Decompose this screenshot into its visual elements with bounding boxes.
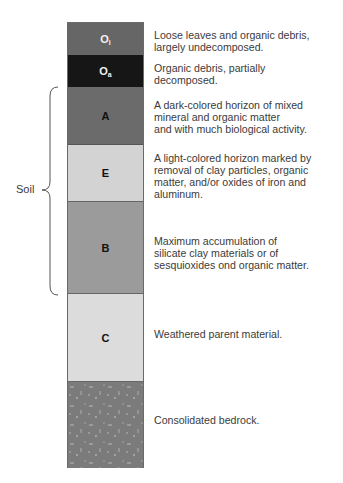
soil-brace-icon xyxy=(36,86,62,298)
layer-b: B xyxy=(68,202,143,294)
desc-oi: Loose leaves and organic debris, largely… xyxy=(154,29,343,53)
layer-bedrock xyxy=(68,382,143,468)
layer-c-label: C xyxy=(102,332,110,344)
layer-oi-label: Oi xyxy=(100,33,111,46)
desc-bedrock: Consolidated bedrock. xyxy=(154,414,343,426)
layer-a: A xyxy=(68,87,143,145)
layer-c: C xyxy=(68,294,143,382)
soil-profile-column: Oi Oa A E B C xyxy=(67,22,144,468)
desc-e: A light-colored horizon marked by remova… xyxy=(154,152,343,200)
desc-b: Maximum accumulation of silicate clay ma… xyxy=(154,235,343,271)
layer-e: E xyxy=(68,145,143,202)
layer-oa-label: Oa xyxy=(99,65,111,78)
soil-label: Soil xyxy=(16,183,34,195)
layer-oi: Oi xyxy=(68,23,143,55)
layer-oa: Oa xyxy=(68,55,143,87)
layer-e-label: E xyxy=(102,167,109,179)
desc-oa: Organic debris, partially decomposed. xyxy=(154,62,343,86)
desc-a: A dark-colored horizon of mixed mineral … xyxy=(154,99,343,135)
layer-a-label: A xyxy=(102,110,110,122)
layer-b-label: B xyxy=(102,242,110,254)
desc-c: Weathered parent material. xyxy=(154,328,343,340)
